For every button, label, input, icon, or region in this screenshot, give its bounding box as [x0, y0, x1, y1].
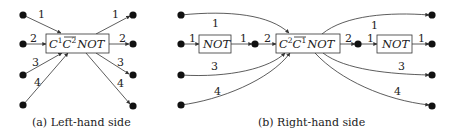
- label-b-out-2: 2: [345, 32, 352, 45]
- label-a-in-2: 2: [30, 32, 37, 45]
- gate-label-a: C1C2NOT: [49, 36, 106, 51]
- node-b-out-3: [428, 71, 435, 78]
- node-b-in-1: [177, 11, 184, 18]
- caption-a: (a) Left-hand side: [32, 116, 131, 129]
- node-a-out-3: [129, 71, 136, 78]
- node-a-out-2: [129, 40, 136, 47]
- label-b-out-3: 3: [398, 60, 405, 73]
- label-b-out-1: 1: [371, 19, 378, 32]
- caption-b: (b) Right-hand side: [258, 116, 365, 129]
- label-a-out-3: 3: [117, 56, 124, 69]
- edge-a-in-3: [23, 53, 62, 75]
- label-a-out-4: 4: [117, 77, 124, 90]
- label-b-in-2: 2: [264, 32, 271, 45]
- label-b-not2-in: 1: [367, 32, 374, 45]
- label-b-in-3: 3: [211, 60, 218, 73]
- node-b-mid-right: [354, 40, 361, 47]
- edge-b-out-4: [315, 53, 429, 105]
- node-a-in-2: [19, 40, 26, 47]
- node-b-out-2: [428, 40, 435, 47]
- label-a-in-3: 3: [32, 56, 39, 69]
- node-b-in-2: [177, 40, 184, 47]
- panel-b: NOT C2C1NOT NOT 1 1 1 2 3 4 1 2 1 1 3 4 …: [177, 11, 435, 129]
- label-b-out-4: 4: [394, 85, 401, 98]
- edge-b-in-1: [181, 13, 289, 33]
- node-b-mid-left: [251, 40, 258, 47]
- label-b-not-out: 1: [240, 32, 247, 45]
- node-a-in-1: [19, 11, 26, 18]
- edge-b-out-3: [323, 53, 429, 75]
- node-a-in-3: [19, 71, 26, 78]
- gate-label-b: C2C1NOT: [279, 36, 336, 51]
- label-b-in-1: 1: [212, 17, 219, 30]
- label-a-in-4: 4: [34, 76, 41, 89]
- node-a-out-4: [129, 102, 136, 109]
- label-b-in-4: 4: [214, 85, 221, 98]
- node-b-in-4: [177, 101, 184, 108]
- node-a-in-4: [19, 101, 26, 108]
- panel-a: C1C2NOT 1 2 3 4 1 2 3 4 (a) Left-hand si…: [19, 8, 136, 129]
- label-a-out-1: 1: [112, 8, 119, 21]
- node-a-out-1: [129, 11, 136, 18]
- edge-a-in-4: [23, 53, 68, 105]
- label-b-not2-out: 1: [418, 32, 425, 45]
- node-b-out-4: [428, 102, 435, 109]
- diagram-canvas: C1C2NOT 1 2 3 4 1 2 3 4 (a) Left-hand si…: [0, 0, 453, 138]
- node-b-out-1: [428, 11, 435, 18]
- label-a-out-2: 2: [119, 32, 126, 45]
- node-b-in-3: [177, 71, 184, 78]
- not-gate-left-label: NOT: [202, 37, 231, 51]
- label-b-not-in: 1: [189, 32, 196, 45]
- label-a-in-1: 1: [38, 8, 45, 21]
- not-gate-right-label: NOT: [381, 37, 410, 51]
